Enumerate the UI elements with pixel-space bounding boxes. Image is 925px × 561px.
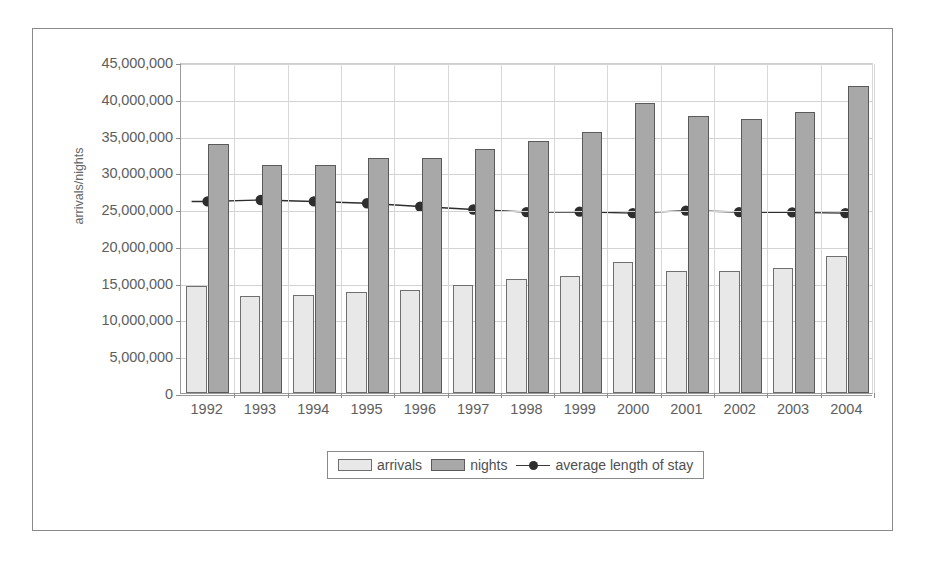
bar-arrivals: [560, 276, 581, 393]
chart-figure-frame: arrivals/nights 45,000,00040,000,00035,0…: [32, 28, 893, 531]
y-axis-tickmark: [176, 285, 181, 286]
category-separator: [661, 64, 662, 393]
y-axis-tickmark: [176, 395, 181, 396]
bar-arrivals: [719, 271, 740, 393]
bar-arrivals: [186, 286, 207, 393]
y-axis-tickmark: [176, 248, 181, 249]
bar-arrivals: [453, 285, 474, 393]
x-axis-tickmark: [607, 393, 608, 398]
x-axis-tickmark: [234, 393, 235, 398]
y-axis-tick-label: 20,000,000: [101, 239, 173, 255]
x-axis-tick-label: 1995: [350, 401, 382, 417]
legend-item-arrivals: arrivals: [338, 457, 422, 473]
y-axis-tickmark: [176, 174, 181, 175]
bar-arrivals: [613, 262, 634, 393]
x-axis-tick-labels: 1992199319941995199619971998199920002001…: [180, 401, 873, 431]
x-axis-tickmark: [501, 393, 502, 398]
y-axis-tickmark: [176, 101, 181, 102]
x-axis-tick-label: 1993: [244, 401, 276, 417]
x-axis-tick-label: 1997: [457, 401, 489, 417]
bar-nights: [422, 158, 443, 393]
category-separator: [394, 64, 395, 393]
x-axis-tick-label: 2001: [670, 401, 702, 417]
bar-nights: [848, 86, 869, 393]
x-axis-tick-label: 1998: [510, 401, 542, 417]
category-separator: [767, 64, 768, 393]
bar-arrivals: [773, 268, 794, 393]
bar-arrivals: [826, 256, 847, 393]
bar-nights: [262, 165, 283, 393]
y-axis-tick-label: 45,000,000: [101, 55, 173, 71]
legend-swatch-arrivals-icon: [338, 459, 372, 471]
x-axis-tick-label: 1994: [297, 401, 329, 417]
y-axis-tick-label: 35,000,000: [101, 129, 173, 145]
category-separator: [554, 64, 555, 393]
bar-arrivals: [293, 295, 314, 393]
x-axis-tickmark: [394, 393, 395, 398]
bar-nights: [208, 144, 229, 393]
x-axis-tick-label: 2000: [617, 401, 649, 417]
y-axis-tickmark: [176, 138, 181, 139]
x-axis-tickmark: [341, 393, 342, 398]
category-separator: [821, 64, 822, 393]
legend-label-arrivals: arrivals: [377, 457, 422, 473]
category-separator: [341, 64, 342, 393]
bar-arrivals: [346, 292, 367, 393]
bar-arrivals: [506, 279, 527, 393]
y-axis-tick-label: 5,000,000: [109, 349, 173, 365]
x-axis-tickmark: [874, 393, 875, 398]
legend-swatch-nights-icon: [431, 459, 465, 471]
y-axis-tick-label: 0: [165, 386, 173, 402]
legend-swatch-line-marker-icon: [516, 459, 550, 471]
category-separator: [448, 64, 449, 393]
chart-legend: arrivals nights average length of stay: [327, 451, 704, 479]
bar-nights: [475, 149, 496, 393]
bar-nights: [635, 103, 656, 393]
category-separator: [234, 64, 235, 393]
x-axis-tickmark: [661, 393, 662, 398]
y-axis-tickmark: [176, 321, 181, 322]
y-axis-tickmark: [176, 211, 181, 212]
y-axis-tickmark: [176, 64, 181, 65]
legend-label-average-length-of-stay: average length of stay: [555, 457, 693, 473]
bar-nights: [741, 119, 762, 393]
category-separator: [714, 64, 715, 393]
x-axis-tickmark: [714, 393, 715, 398]
x-axis-tick-label: 1999: [564, 401, 596, 417]
y-axis-tick-label: 30,000,000: [101, 165, 173, 181]
x-axis-tick-label: 1992: [191, 401, 223, 417]
category-separator: [501, 64, 502, 393]
bar-arrivals: [666, 271, 687, 393]
bar-nights: [582, 132, 603, 393]
x-axis-tick-label: 2002: [724, 401, 756, 417]
category-separator: [288, 64, 289, 393]
x-axis-tickmark: [448, 393, 449, 398]
x-axis-tickmark: [821, 393, 822, 398]
y-axis-tick-labels: 45,000,00040,000,00035,000,00030,000,000…: [61, 63, 173, 394]
y-axis-tick-label: 40,000,000: [101, 92, 173, 108]
bar-nights: [368, 158, 389, 393]
bar-nights: [528, 141, 549, 393]
category-separator: [874, 64, 875, 393]
bar-nights: [795, 112, 816, 393]
x-axis-tick-label: 2004: [830, 401, 862, 417]
plot-area: [180, 63, 873, 394]
y-axis-tick-label: 15,000,000: [101, 276, 173, 292]
legend-label-nights: nights: [470, 457, 507, 473]
bar-nights: [688, 116, 709, 393]
x-axis-tickmark: [767, 393, 768, 398]
y-axis-tickmark: [176, 358, 181, 359]
bar-arrivals: [240, 296, 261, 393]
bar-arrivals: [400, 290, 421, 393]
legend-item-nights: nights: [431, 457, 507, 473]
bar-nights: [315, 165, 336, 393]
x-axis-tickmark: [288, 393, 289, 398]
x-axis-tickmark: [554, 393, 555, 398]
x-axis-tick-label: 1996: [404, 401, 436, 417]
y-axis-tick-label: 25,000,000: [101, 202, 173, 218]
y-axis-tick-label: 10,000,000: [101, 312, 173, 328]
x-axis-tick-label: 2003: [777, 401, 809, 417]
legend-item-average-length-of-stay: average length of stay: [516, 457, 693, 473]
category-separator: [607, 64, 608, 393]
